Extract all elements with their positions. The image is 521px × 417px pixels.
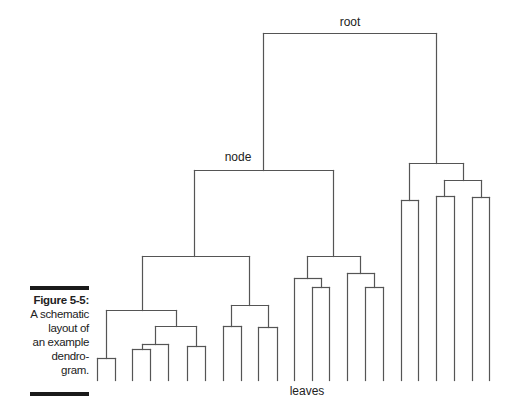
root-label: root (340, 15, 361, 29)
figure-caption: Figure 5-5: A schematic layout of an exa… (20, 293, 89, 377)
figure-number: Figure 5-5: (20, 293, 89, 307)
caption-line: layout of (20, 321, 89, 335)
caption-line: gram. (20, 363, 89, 377)
caption-line: an example (20, 335, 89, 349)
caption-line: A schematic (20, 307, 89, 321)
caption-bottom-bar (30, 392, 89, 396)
leaves-label: leaves (290, 384, 325, 398)
node-label: node (225, 150, 252, 164)
caption-top-bar (30, 286, 89, 290)
caption-line: dendro- (20, 349, 89, 363)
